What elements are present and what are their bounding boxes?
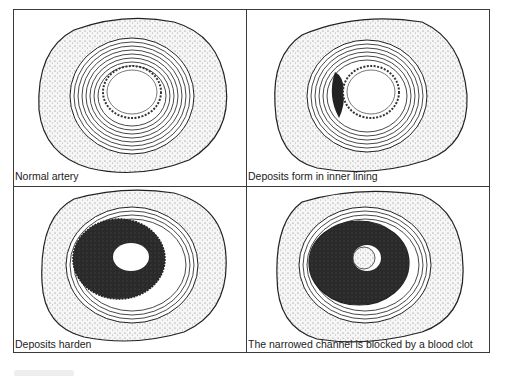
blocked-artery-illustration <box>247 187 489 353</box>
caption-blocked-by-clot: The narrowed channel is blocked by a blo… <box>248 338 473 350</box>
panel-blocked-by-clot: The narrowed channel is blocked by a blo… <box>247 187 489 353</box>
deposits-harden-illustration <box>14 187 246 353</box>
normal-artery-illustration <box>14 10 246 186</box>
panel-deposits-harden: Deposits harden <box>14 187 246 353</box>
deposits-form-illustration <box>247 10 489 186</box>
faint-cropped-text <box>14 370 74 376</box>
caption-deposits-form: Deposits form in inner lining <box>248 170 378 182</box>
panel-normal-artery: Normal artery <box>14 10 246 186</box>
caption-normal-artery: Normal artery <box>15 170 79 182</box>
panel-deposits-form: Deposits form in inner lining <box>247 10 489 186</box>
caption-deposits-harden: Deposits harden <box>15 338 91 350</box>
